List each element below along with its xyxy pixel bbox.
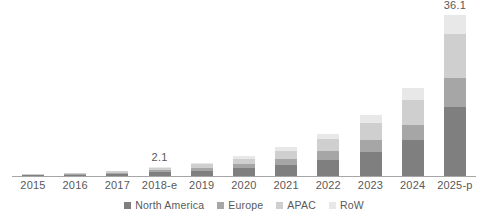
- x-axis-label-2023: 2023: [350, 178, 392, 194]
- legend-swatch-apac: [276, 202, 283, 209]
- bar-stack: [275, 147, 297, 176]
- bar-stack: [444, 15, 466, 176]
- bar-segment-north-america[interactable]: [360, 152, 382, 176]
- legend-item-apac[interactable]: APAC: [276, 199, 316, 211]
- bar-segment-row[interactable]: [444, 15, 466, 34]
- bar-column-2020[interactable]: [223, 6, 265, 176]
- legend-swatch-row: [329, 202, 336, 209]
- bar-stack: [191, 163, 213, 176]
- bar-segment-europe[interactable]: [317, 151, 339, 160]
- x-axis-label-2015: 2015: [12, 178, 54, 194]
- x-axis-tick-labels: 2015201620172018-e2019202020212022202320…: [12, 178, 476, 194]
- bar-column-2024[interactable]: [392, 6, 434, 176]
- bar-segment-north-america[interactable]: [233, 168, 255, 176]
- bar-segment-row[interactable]: [360, 115, 382, 123]
- stacked-bar-chart: 2.136.1 2015201620172018-e20192020202120…: [0, 0, 488, 224]
- legend-label: Europe: [228, 199, 263, 211]
- bar-segment-europe[interactable]: [402, 125, 424, 141]
- bar-segment-row[interactable]: [402, 88, 424, 99]
- x-axis-label-2016: 2016: [54, 178, 96, 194]
- x-axis-line: [12, 176, 476, 177]
- bar-stack: [149, 167, 171, 176]
- bar-segment-north-america[interactable]: [275, 165, 297, 176]
- bar-column-2017[interactable]: [96, 6, 138, 176]
- bar-segment-apac[interactable]: [402, 100, 424, 125]
- bar-column-2016[interactable]: [54, 6, 96, 176]
- bar-segment-apac[interactable]: [444, 34, 466, 78]
- bar-stack: [402, 88, 424, 176]
- legend-label: RoW: [340, 199, 364, 211]
- bar-segment-apac[interactable]: [360, 123, 382, 140]
- bar-segment-north-america[interactable]: [402, 140, 424, 176]
- bar-column-2019[interactable]: [181, 6, 223, 176]
- legend-item-north-america[interactable]: North America: [124, 199, 204, 211]
- x-axis-label-2021: 2021: [265, 178, 307, 194]
- x-axis-label-2018-e: 2018-e: [139, 178, 181, 194]
- bar-segment-apac[interactable]: [317, 139, 339, 151]
- bar-segment-europe[interactable]: [360, 140, 382, 152]
- legend-swatch-north-america: [124, 202, 131, 209]
- legend-label: APAC: [287, 199, 316, 211]
- bar-value-label: 36.1: [444, 0, 466, 11]
- bar-column-2018-e[interactable]: 2.1: [139, 6, 181, 176]
- bar-segment-north-america[interactable]: [444, 107, 466, 176]
- bar-segment-north-america[interactable]: [317, 160, 339, 176]
- legend-item-row[interactable]: RoW: [329, 199, 364, 211]
- legend-item-europe[interactable]: Europe: [217, 199, 263, 211]
- bar-column-2023[interactable]: [350, 6, 392, 176]
- x-axis-label-2020: 2020: [223, 178, 265, 194]
- bar-group: 2.136.1: [12, 6, 476, 176]
- x-axis-label-2017: 2017: [96, 178, 138, 194]
- bar-column-2025-p[interactable]: 36.1: [434, 6, 476, 176]
- bar-column-2022[interactable]: [307, 6, 349, 176]
- x-axis-label-2025-p: 2025-p: [434, 178, 476, 194]
- bar-column-2021[interactable]: [265, 6, 307, 176]
- plot-area: 2.136.1: [12, 6, 476, 176]
- x-axis-label-2022: 2022: [307, 178, 349, 194]
- bar-stack: [233, 156, 255, 176]
- bar-segment-europe[interactable]: [444, 78, 466, 107]
- x-axis-label-2019: 2019: [181, 178, 223, 194]
- bar-segment-apac[interactable]: [275, 151, 297, 159]
- bar-column-2015[interactable]: [12, 6, 54, 176]
- bar-stack: [360, 115, 382, 176]
- legend-swatch-europe: [217, 202, 224, 209]
- legend-label: North America: [135, 199, 204, 211]
- bar-value-label: 2.1: [152, 151, 168, 163]
- chart-legend: North AmericaEuropeAPACRoW: [0, 199, 488, 211]
- x-axis-label-2024: 2024: [392, 178, 434, 194]
- bar-stack: [317, 134, 339, 177]
